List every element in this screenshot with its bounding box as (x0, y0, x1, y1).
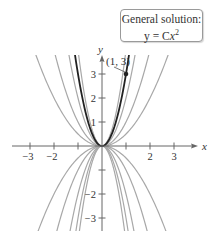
general-solution-equation: y = Cx2 (121, 26, 202, 43)
x-axis-arrow-icon (191, 144, 198, 149)
y-axis-arrow-icon (100, 55, 105, 62)
y-axis-label: y (97, 43, 103, 55)
y-tick-label: 3 (91, 69, 96, 80)
x-tick-label: 3 (171, 151, 176, 162)
y-tick-label: −3 (85, 213, 96, 224)
y-tick-label: 1 (91, 117, 96, 128)
particular-point: (1, 3) (106, 55, 130, 76)
point-label: (1, 3) (106, 55, 130, 68)
x-tick-label: −2 (46, 151, 57, 162)
general-solution-title: General solution: (121, 12, 202, 26)
x-tick-label: −3 (22, 151, 33, 162)
general-solution-box: General solution: y = Cx2 (120, 9, 203, 42)
y-tick-label: −2 (85, 189, 96, 200)
x-axis-label: x (201, 140, 207, 152)
y-tick-label: 2 (91, 93, 96, 104)
point-marker (124, 72, 129, 77)
x-tick-label: 2 (147, 151, 152, 162)
